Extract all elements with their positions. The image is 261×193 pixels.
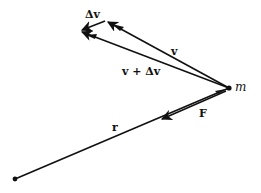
velocity-vector-v	[108, 22, 229, 88]
velocity-plus-delta-vector	[82, 32, 229, 88]
label-mass: m	[235, 80, 246, 94]
label-v: v	[170, 45, 178, 58]
force-vector-F	[162, 91, 226, 119]
vector-diagram: Δv v v + Δv m F r	[0, 0, 261, 193]
origin-point	[13, 177, 18, 182]
label-delta-v: Δv	[85, 8, 101, 21]
label-force: F	[199, 107, 207, 120]
radius-vector-r	[15, 88, 229, 179]
label-v-plus-delta-v: v + Δv	[121, 65, 161, 78]
label-radius: r	[112, 121, 118, 134]
delta-v-vector	[82, 21, 105, 30]
